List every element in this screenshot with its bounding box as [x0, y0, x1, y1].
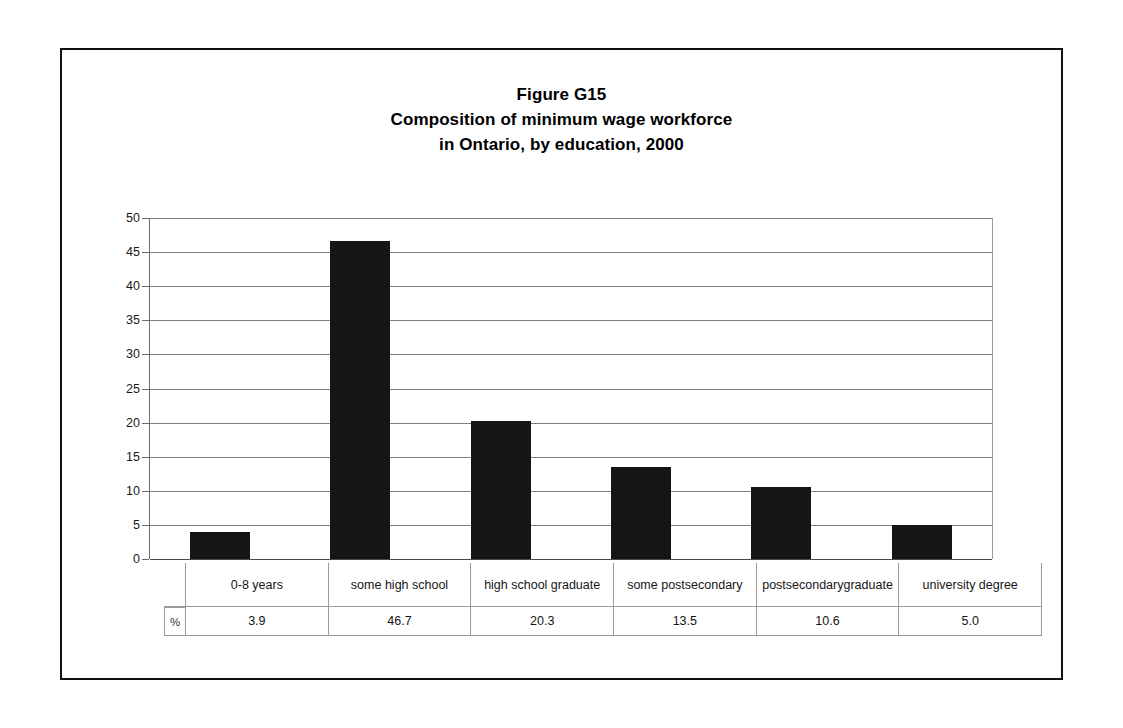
y-axis: 05101520253035404550 — [114, 218, 140, 559]
category-label-cell: 0-8 years — [185, 563, 328, 607]
y-tick-label: 5 — [133, 519, 140, 531]
category-label-line: university degree — [923, 578, 1018, 592]
category-label-cell: postsecondarygraduate — [756, 563, 899, 607]
y-tick-label: 30 — [126, 348, 140, 360]
chart-title-line-2: Composition of minimum wage workforce — [62, 107, 1061, 132]
category-label-cell: high school graduate — [470, 563, 613, 607]
table-row-categories: 0-8 yearssome high schoolhigh school gra… — [164, 563, 1042, 607]
y-tick-mark — [142, 559, 149, 560]
bar-slot — [571, 218, 711, 559]
category-label-cell: some postsecondary — [613, 563, 756, 607]
value-cell: 46.7 — [328, 607, 471, 636]
table-corner-blank — [164, 563, 185, 607]
category-label-cell: university degree — [898, 563, 1042, 607]
series-label-cell: % — [164, 607, 185, 636]
category-label-line: postsecondary — [762, 578, 843, 592]
category-label-line: graduate — [844, 578, 893, 592]
bar — [611, 467, 671, 559]
y-tick-label: 35 — [126, 314, 140, 326]
chart-title: Figure G15 Composition of minimum wage w… — [62, 82, 1061, 157]
bar-slot — [711, 218, 851, 559]
bar-series — [150, 218, 992, 559]
y-tick-label: 50 — [126, 212, 140, 224]
table-row-values: % 3.946.720.313.510.65.0 — [164, 607, 1042, 636]
y-tick-mark — [142, 457, 149, 458]
chart-title-line-3: in Ontario, by education, 2000 — [62, 132, 1061, 157]
y-tick-label: 25 — [126, 383, 140, 395]
bar — [471, 421, 531, 559]
bar — [892, 525, 952, 559]
y-tick-mark — [142, 320, 149, 321]
data-table: 0-8 yearssome high schoolhigh school gra… — [164, 563, 1042, 636]
category-label-line: 0-8 years — [231, 578, 283, 592]
y-tick-label: 40 — [126, 280, 140, 292]
figure-frame: Figure G15 Composition of minimum wage w… — [60, 48, 1063, 680]
bar-slot — [290, 218, 430, 559]
y-tick-label: 0 — [133, 553, 140, 565]
bar — [190, 532, 250, 559]
y-tick-mark — [142, 525, 149, 526]
bar-slot — [150, 218, 290, 559]
value-cell: 5.0 — [898, 607, 1042, 636]
y-tick-mark — [142, 423, 149, 424]
value-cell: 20.3 — [470, 607, 613, 636]
y-tick-mark — [142, 389, 149, 390]
value-cell: 10.6 — [756, 607, 899, 636]
y-tick-mark — [142, 252, 149, 253]
y-tick-label: 45 — [126, 246, 140, 258]
plot-area — [149, 218, 992, 559]
y-tick-mark — [142, 491, 149, 492]
category-label-line: high school graduate — [484, 578, 600, 592]
bar — [751, 487, 811, 559]
category-label-line: some high school — [351, 578, 448, 592]
y-tick-label: 15 — [126, 451, 140, 463]
y-tick-mark — [142, 286, 149, 287]
value-cell: 3.9 — [185, 607, 328, 636]
chart-title-line-1: Figure G15 — [62, 82, 1061, 107]
y-tick-mark — [142, 354, 149, 355]
chart-plot-region: 05101520253035404550 0-8 yearssome high … — [114, 218, 1010, 638]
value-cell: 13.5 — [613, 607, 756, 636]
category-label-cell: some high school — [328, 563, 471, 607]
plot-right-edge — [992, 218, 993, 559]
y-tick-label: 20 — [126, 417, 140, 429]
bar — [330, 241, 390, 559]
y-tick-mark — [142, 218, 149, 219]
y-tick-label: 10 — [126, 485, 140, 497]
bar-slot — [852, 218, 992, 559]
category-label-line: some postsecondary — [627, 578, 742, 592]
bar-slot — [431, 218, 571, 559]
axis-baseline — [150, 559, 992, 560]
